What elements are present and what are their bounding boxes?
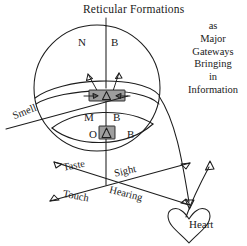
brain-to-heart-curve <box>159 96 189 202</box>
side-caption-line-3: Gateways <box>181 46 245 59</box>
layer-letter-b-upper: B <box>111 37 118 49</box>
side-caption-line-6: Information <box>181 84 245 97</box>
side-caption-line-5: in <box>181 71 245 84</box>
heart-label: Heart <box>189 219 213 231</box>
side-caption-line-4: Bringing <box>181 58 245 71</box>
layer-letter-b-lower: B <box>127 129 134 141</box>
side-caption: as Major Gateways Bringing in Informatio… <box>181 20 245 97</box>
layer-letter-m: M <box>84 112 94 124</box>
heart-to-brain-arrowhead <box>206 161 215 170</box>
layer-letter-o: O <box>89 129 97 141</box>
diagram-canvas: Reticular Formations as Major Gateways B… <box>0 0 247 246</box>
layer-letter-b-middle: B <box>113 112 120 124</box>
side-caption-line-2: Major <box>181 33 245 46</box>
layer-letter-n: N <box>78 37 86 49</box>
side-caption-line-1: as <box>181 20 245 33</box>
gateway-arrow-right-head <box>116 73 123 79</box>
figure-title: Reticular Formations <box>83 3 184 15</box>
